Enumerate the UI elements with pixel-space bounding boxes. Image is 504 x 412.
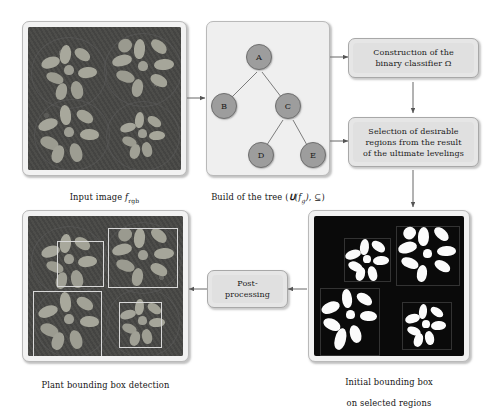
postprocessing-box[interactable]: Post- processing [207,270,288,308]
plant-rosette [38,43,100,101]
detection-bbox [33,291,102,356]
tree-caption: Build of the tree (𝐔(fg), ⊆) [186,181,350,206]
plant-rosette [36,103,102,165]
input-image-caption-sub: rgb [128,196,139,203]
plant-rosette [110,37,176,99]
tree-node-e[interactable]: E [300,142,326,168]
classifier-box-label: Construction of the binary classifier Ω [373,47,453,69]
initial-bbox-caption-line2: on selected regions [308,398,470,409]
final-image-caption: Plant bounding box detection [18,369,193,390]
plant-rosette [116,109,170,161]
selection-box-inner: Selection of desirable regions from the … [353,122,474,162]
classifier-box-inner: Construction of the binary classifier Ω [353,43,474,73]
tree-node-a[interactable]: A [246,44,272,70]
segmented-plant [396,226,458,284]
tree-node-a-label: A [256,52,262,62]
tree-node-c[interactable]: C [275,93,301,119]
tree-caption-pre: Build of the tree ( [211,192,288,202]
selection-box[interactable]: Selection of desirable regions from the … [348,117,479,167]
initial-bbox-caption: Initial bounding box on selected regions [308,366,470,412]
classifier-box[interactable]: Construction of the binary classifier Ω [348,38,479,78]
tree-node-b[interactable]: B [211,93,237,119]
input-image-photo [28,27,181,170]
detection-bbox [119,302,162,348]
input-image-panel [22,21,187,176]
segmented-plant [402,302,450,348]
initial-bbox-caption-line1: Initial bounding box [308,377,470,388]
detection-bbox [108,228,178,288]
input-image-caption: Input image frgb [22,181,187,206]
selection-box-label: Selection of desirable regions from the … [363,126,464,159]
final-image-photo [28,216,183,356]
postprocessing-box-label: Post- processing [225,278,270,300]
tree-caption-post: ) [321,192,324,202]
tree-node-d-label: D [258,150,265,160]
tree-node-e-label: E [310,150,316,160]
initial-bbox-photo [314,216,464,356]
tree-node-b-label: B [221,101,227,111]
postprocessing-box-inner: Post- processing [212,275,283,303]
detection-bbox [57,241,104,287]
tree-node-c-label: C [285,101,291,111]
segmented-plant [320,288,378,354]
final-image-panel [22,210,189,362]
initial-bbox-image-panel [308,210,470,362]
tree-node-d[interactable]: D [248,142,274,168]
final-image-caption-text: Plant bounding box detection [41,380,169,390]
segmented-plant [344,238,390,282]
tree-panel: A B C D E [206,21,330,176]
input-image-caption-text: Input image [70,192,125,202]
